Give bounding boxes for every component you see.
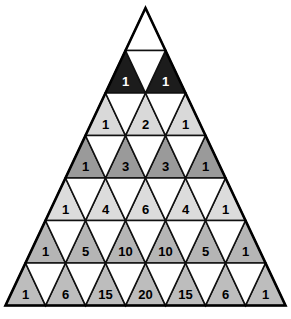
triangle-row-3: 1 3 3 1 (66, 136, 226, 179)
cell-label-r5c1: 5 (82, 244, 89, 259)
cell-label-r5c0: 1 (42, 244, 49, 259)
cell-label-r4c3: 4 (182, 202, 190, 217)
cell-label-r6c0: 1 (22, 287, 29, 302)
pascal-triangle-svg: 1 1 1 2 1 1 3 3 1 (0, 0, 291, 319)
cell-label-r4c0: 1 (62, 202, 69, 217)
cell-label-r5c3: 10 (158, 244, 172, 259)
pascal-triangle-figure: 1 1 1 2 1 1 3 3 1 (0, 0, 291, 319)
cell-label-r1c1: 1 (162, 74, 169, 89)
cell-label-r5c2: 10 (118, 244, 132, 259)
cell-label-r3c2: 3 (162, 159, 169, 174)
cell-label-r1c0: 1 (122, 74, 129, 89)
cell-label-r4c2: 6 (142, 202, 149, 217)
triangle-row-5: 1 5 10 10 5 1 (26, 221, 266, 264)
cell-label-r6c6: 1 (262, 287, 269, 302)
triangle-row-4: 1 4 6 4 1 (46, 178, 246, 221)
cell-label-r4c4: 1 (222, 202, 229, 217)
triangle-row-6: 1 6 15 20 15 6 1 (6, 263, 286, 306)
cell-label-r3c3: 1 (202, 159, 209, 174)
cell-label-r4c1: 4 (102, 202, 110, 217)
cell-label-r3c1: 3 (122, 159, 129, 174)
cell-label-r2c1: 2 (142, 117, 149, 132)
cell-label-r3c0: 1 (82, 159, 89, 174)
cell-label-r5c5: 1 (242, 244, 249, 259)
cell-label-r6c1: 6 (62, 287, 69, 302)
cell-label-r6c3: 20 (138, 287, 152, 302)
cell-label-r5c4: 5 (202, 244, 209, 259)
cell-label-r2c2: 1 (182, 117, 189, 132)
cell-label-r6c4: 15 (178, 287, 192, 302)
cell-label-r6c2: 15 (98, 287, 112, 302)
cell-label-r2c0: 1 (102, 117, 109, 132)
cell-label-r6c5: 6 (222, 287, 229, 302)
